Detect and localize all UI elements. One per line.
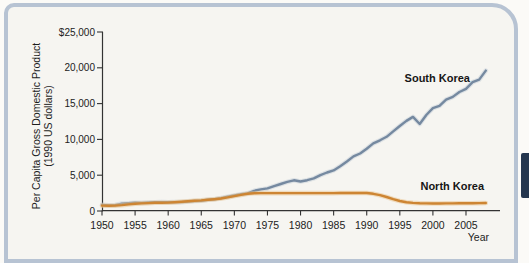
x-tick-label: 2000 <box>421 219 445 231</box>
x-tick-label: 1950 <box>90 219 114 231</box>
x-tick-label: 1970 <box>223 219 247 231</box>
x-tick-label: 1975 <box>256 219 280 231</box>
x-tick-label: 1985 <box>322 219 346 231</box>
x-tick-label: 1965 <box>190 219 214 231</box>
south-korea-series-label: South Korea <box>360 72 470 84</box>
y-tick-label: 0 <box>89 206 95 217</box>
x-axis-title: Year <box>379 231 489 243</box>
y-axis-title-line2: (1990 US dollars) <box>42 26 54 226</box>
y-tick-label: 5,000 <box>70 170 95 181</box>
y-tick-label: 10,000 <box>64 134 95 145</box>
x-tick-label: 2005 <box>454 219 478 231</box>
x-tick-label: 1960 <box>157 219 181 231</box>
north-korea-series-label: North Korea <box>374 180 484 192</box>
x-tick-label: 1980 <box>289 219 313 231</box>
y-tick-label: $25,000 <box>59 27 96 38</box>
page-edge-tab <box>521 153 529 198</box>
x-tick-label: 1995 <box>388 219 412 231</box>
y-tick-label: 15,000 <box>64 98 95 109</box>
y-axis-title-line1: Per Capita Gross Domestic Product <box>30 26 42 226</box>
x-tick-label: 1955 <box>123 219 147 231</box>
y-axis-title: Per Capita Gross Domestic Product (1990 … <box>30 26 54 226</box>
y-tick-label: 20,000 <box>64 62 95 73</box>
x-tick-label: 1990 <box>355 219 379 231</box>
